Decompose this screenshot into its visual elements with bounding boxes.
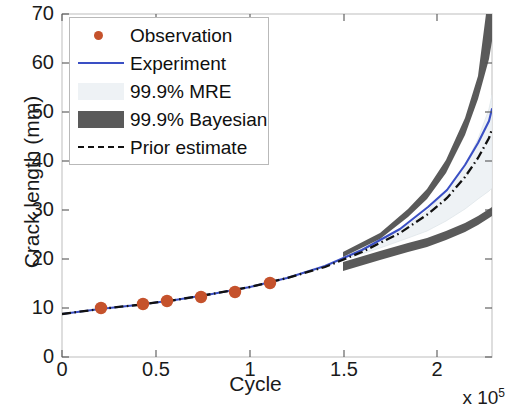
legend-item-mre: 99.9% MRE: [76, 77, 264, 105]
legend: Observation Experiment 99.9% MRE 99.9% B…: [69, 17, 269, 165]
x-axis-multiplier-exponent: 5: [498, 386, 505, 400]
legend-label: 99.9% MRE: [130, 82, 231, 101]
legend-label: Observation: [130, 26, 232, 45]
legend-item-observation: Observation: [76, 21, 264, 49]
experiment-line-icon: [76, 52, 126, 74]
mre-patch-icon: [76, 80, 126, 102]
legend-item-bayesian: 99.9% Bayesian: [76, 105, 264, 133]
y-axis-label: Crack length (mm): [20, 32, 44, 332]
legend-label: 99.9% Bayesian: [130, 110, 267, 129]
legend-label: Experiment: [130, 54, 226, 73]
x-axis-multiplier: x 105: [462, 386, 505, 409]
legend-item-prior-estimate: Prior estimate: [76, 133, 264, 161]
y-tick-label: 70: [2, 2, 54, 25]
prior-estimate-line-icon: [76, 136, 126, 158]
x-axis-label: Cycle: [0, 372, 511, 396]
bayesian-patch-icon: [76, 108, 126, 130]
legend-label: Prior estimate: [130, 138, 247, 157]
observation-marker-icon: [76, 24, 126, 46]
x-axis-multiplier-base: x 10: [462, 387, 498, 408]
crack-growth-chart: 70 60 50 40 30 20 10 0 0 0.5 1 1.5 2 Cra…: [0, 0, 511, 414]
legend-item-experiment: Experiment: [76, 49, 264, 77]
